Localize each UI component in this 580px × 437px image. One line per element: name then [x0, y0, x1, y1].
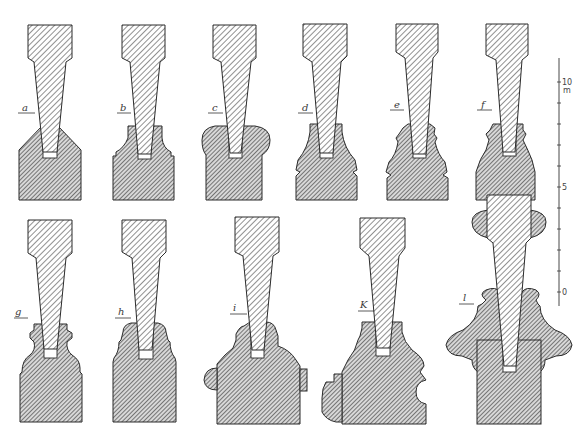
tenon-a [28, 25, 72, 152]
figure-c: c [202, 25, 270, 200]
side-moulding-left-i [204, 368, 217, 390]
drawing-plate: a b c d e f [0, 0, 580, 437]
figure-label-f: f [480, 99, 487, 110]
figure-l: l [446, 195, 572, 424]
figure-k: K [322, 218, 426, 424]
figure-d: d [296, 24, 357, 200]
figure-label-e: e [394, 99, 400, 110]
scale-label-5: 5 [562, 183, 567, 192]
figure-label-k: K [359, 299, 368, 310]
figure-label-i: i [233, 302, 236, 313]
figure-e: e [386, 24, 448, 200]
figure-a: a [18, 25, 81, 200]
upper-collar-left-l [472, 210, 488, 238]
figure-b: b [113, 25, 174, 200]
figure-label-d: d [302, 102, 308, 113]
figure-i: i [204, 217, 307, 424]
scale-bar: 10 m 5 0 [557, 58, 572, 306]
figure-g: g [14, 220, 82, 422]
figure-label-a: a [22, 102, 28, 113]
scale-label-0: 0 [562, 288, 567, 297]
side-block-right-i [300, 369, 307, 391]
side-moulding-left-k [322, 374, 342, 422]
figure-f: f [476, 24, 535, 200]
figure-label-g: g [15, 306, 21, 317]
figure-h: h [113, 220, 176, 422]
figure-label-h: h [118, 306, 124, 317]
figure-label-l: l [463, 292, 466, 303]
scale-unit: m [563, 86, 571, 95]
figure-label-b: b [120, 102, 126, 113]
figure-label-c: c [212, 102, 218, 113]
upper-collar-right-l [530, 210, 546, 238]
